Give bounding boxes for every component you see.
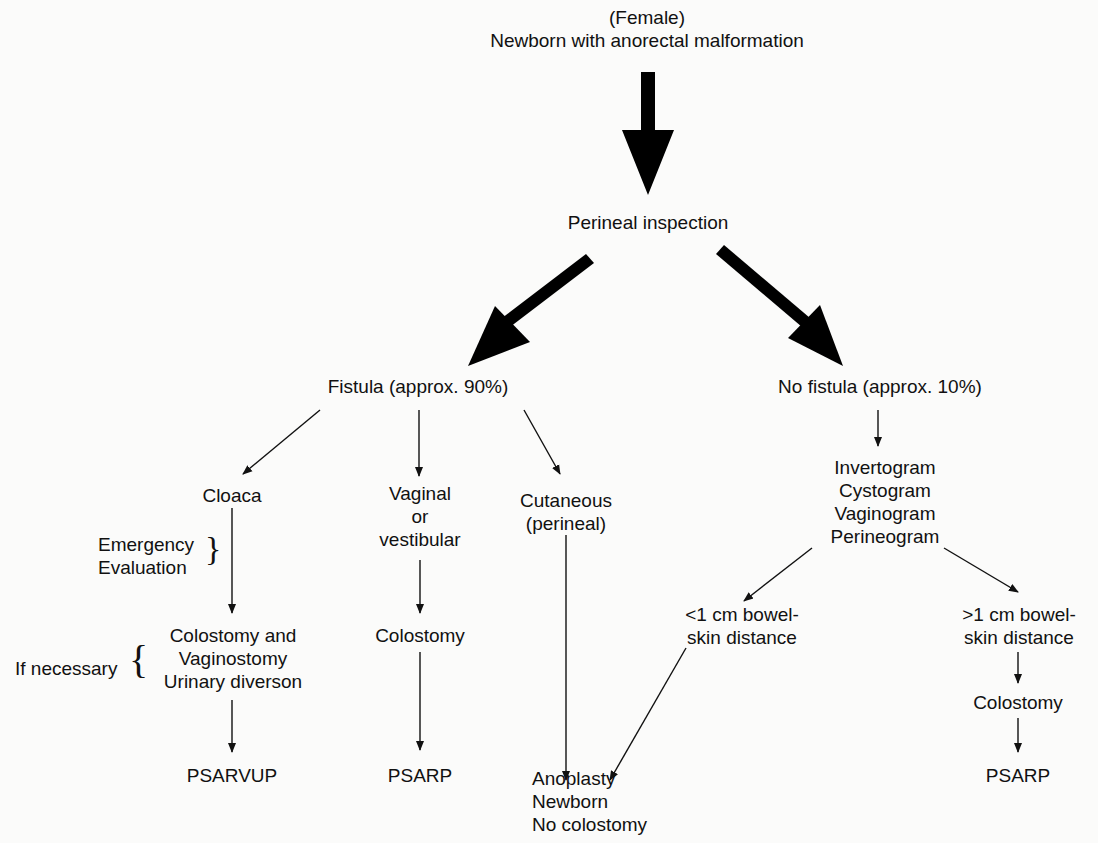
gt1cm-line-1: >1 cm bowel- [954,603,1084,626]
emergency-line-1: Emergency [98,533,208,556]
title: (Female) Newborn with anorectal malforma… [472,6,822,52]
node-fistula: Fistula (approx. 90%) [308,375,528,398]
node-colostomy-gt1: Colostomy [963,691,1073,714]
vaginal-line-3: vestibular [360,528,480,551]
node-perineal-inspection: Perineal inspection [548,211,748,234]
diagram-edges [0,0,1098,843]
left-brace-icon: { [129,645,148,675]
node-imaging: Invertogram Cystogram Vaginogram Perineo… [810,456,960,548]
node-psarp-gt1: PSARP [968,764,1068,787]
node-cutaneous: Cutaneous (perineal) [506,489,626,535]
anoplasty-line-3: No colostomy [532,813,712,836]
cutaneous-line-2: (perineal) [506,512,626,535]
node-no-fistula: No fistula (approx. 10%) [770,375,990,398]
node-colostomy-vaginal: Colostomy [360,624,480,647]
node-cloaca: Cloaca [182,484,282,507]
imaging-invertogram: Invertogram [810,456,960,479]
anoplasty-line-2: Newborn [532,790,712,813]
cutaneous-line-1: Cutaneous [506,489,626,512]
node-anoplasty: Anoplasty Newborn No colostomy [532,767,712,836]
title-female: (Female) [472,6,822,29]
annotation-if-necessary: If necessary [15,657,125,680]
lt1cm-line-2: skin distance [672,626,812,649]
node-vaginal-vestibular: Vaginal or vestibular [360,482,480,551]
node-psarp-vaginal: PSARP [370,764,470,787]
colostomy-and-line: Colostomy and [148,624,318,647]
imaging-perineogram: Perineogram [810,525,960,548]
node-lt1cm: <1 cm bowel- skin distance [672,603,812,649]
gt1cm-line-2: skin distance [954,626,1084,649]
vaginostomy-line: Vaginostomy [148,647,318,670]
node-psarvup: PSARVUP [162,764,302,787]
vaginal-line-2: or [360,505,480,528]
node-gt1cm: >1 cm bowel- skin distance [954,603,1084,649]
imaging-cystogram: Cystogram [810,479,960,502]
annotation-emergency-evaluation: Emergency Evaluation [98,533,208,579]
right-brace-icon: } [205,534,221,564]
big-arrow-left-icon [468,254,594,366]
anoplasty-line-1: Anoplasty [532,767,712,790]
title-newborn: Newborn with anorectal malformation [472,29,822,52]
imaging-vaginogram: Vaginogram [810,502,960,525]
vaginal-line-1: Vaginal [360,482,480,505]
node-colostomy-vaginostomy: Colostomy and Vaginostomy Urinary divers… [148,624,318,693]
big-arrow-right-icon [716,245,843,366]
lt1cm-line-1: <1 cm bowel- [672,603,812,626]
big-arrow-down-icon [622,72,674,195]
urinary-diversion-line: Urinary diverson [148,670,318,693]
emergency-line-2: Evaluation [98,556,208,579]
